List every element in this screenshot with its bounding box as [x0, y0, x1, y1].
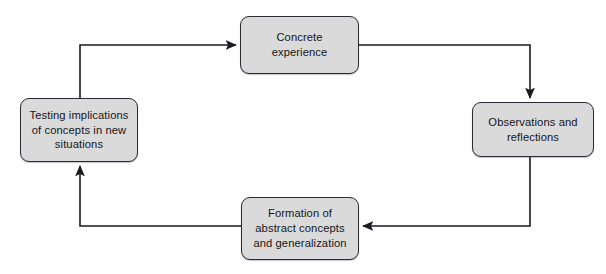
experiential-learning-cycle-diagram: Concrete experience Observations and ref… — [0, 0, 606, 274]
edge-concrete-to-observations — [359, 45, 530, 98]
node-concrete-experience-label: Concrete experience — [267, 30, 333, 60]
node-observations-and-reflections[interactable]: Observations and reflections — [472, 102, 594, 157]
node-observations-and-reflections-label: Observations and reflections — [483, 115, 582, 145]
node-formation-of-abstract-concepts-label: Formation of abstract concepts and gener… — [248, 206, 351, 250]
node-testing-implications[interactable]: Testing implications of concepts in new … — [20, 98, 138, 162]
node-concrete-experience[interactable]: Concrete experience — [240, 16, 359, 74]
edge-formation-to-testing — [80, 166, 241, 226]
node-formation-of-abstract-concepts[interactable]: Formation of abstract concepts and gener… — [241, 197, 359, 260]
node-testing-implications-label: Testing implications of concepts in new … — [25, 108, 134, 152]
edge-observations-to-formation — [363, 157, 530, 226]
edge-testing-to-concrete — [80, 45, 236, 98]
